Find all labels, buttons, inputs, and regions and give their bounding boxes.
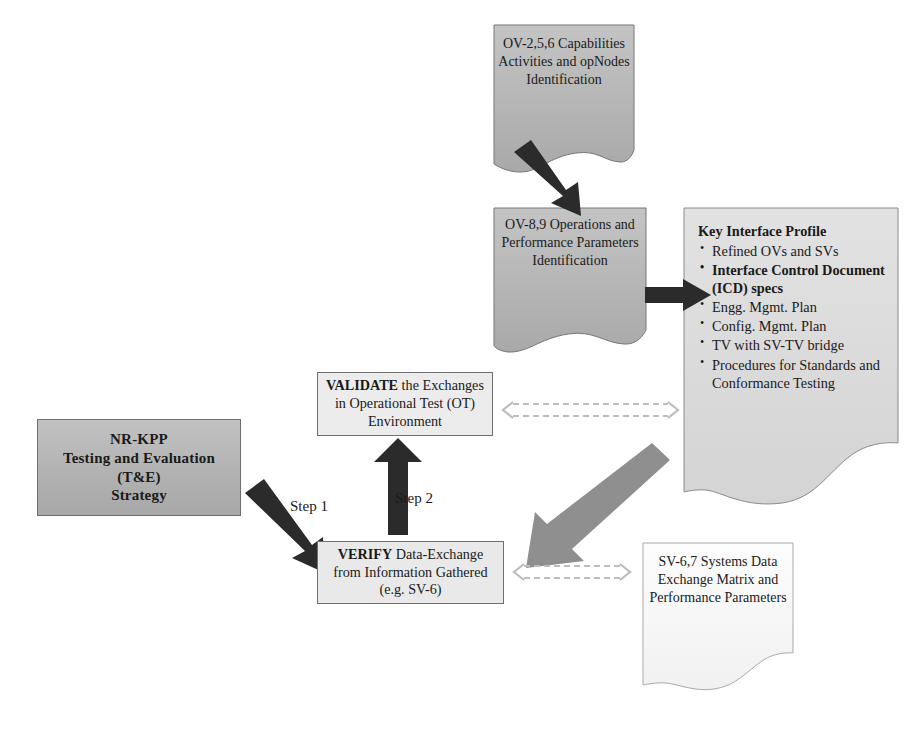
label-step-1: Step 1 (290, 498, 328, 515)
sv-67-line-4: Performance (649, 590, 721, 605)
kip-bullet: Config. Mgmt. Plan (712, 317, 890, 335)
dashed-arrow-validate-kip (513, 404, 668, 416)
node-nr-kpp[interactable]: NR-KPP Testing and Evaluation (T&E) Stra… (37, 419, 241, 516)
ov-256-title: OV-2,5,6 (503, 36, 555, 51)
node-ov-2-5-6[interactable]: OV-2,5,6 Capabilities Activities and opN… (494, 25, 634, 170)
verify-keyword: VERIFY (338, 546, 392, 562)
arrow-verify-to-validate (374, 438, 422, 535)
validate-line-1: VALIDATE the Exchanges (326, 377, 484, 395)
dashed-arrow-verify-sv67-heads (514, 564, 630, 580)
kip-bullet-list: Refined OVs and SVs Interface Control Do… (698, 242, 890, 392)
ov-256-line-1: Capabilities (558, 36, 625, 51)
kip-bullet: Interface Control Document (ICD) specs (712, 261, 890, 297)
verify-line-1-rest: Data-Exchange (392, 546, 483, 562)
ov-256-line-3: opNodes (580, 54, 630, 69)
sv-67-line-1: Systems Data (701, 554, 778, 569)
sv-67-text: SV-6,7 Systems Data Exchange Matrix and … (643, 553, 793, 608)
sv-67-title: SV-6,7 (659, 554, 698, 569)
nr-kpp-line-3: (T&E) (117, 468, 161, 487)
dashed-arrow-validate-kip-heads (503, 402, 678, 418)
dashed-arrow-verify-sv67 (524, 566, 620, 578)
kip-header: Key Interface Profile (698, 222, 890, 241)
ov-256-text: OV-2,5,6 Capabilities Activities and opN… (494, 35, 634, 90)
validate-keyword: VALIDATE (326, 377, 398, 393)
verify-line-3: (e.g. SV-6) (379, 581, 441, 599)
ov-89-line-4: Identification (532, 253, 607, 268)
ov-89-text: OV-8,9 Operations and Performance Parame… (494, 216, 646, 271)
node-validate[interactable]: VALIDATE the Exchanges in Operational Te… (317, 372, 493, 436)
ov-89-title: OV-8,9 (505, 217, 546, 232)
node-sv-6-7[interactable]: SV-6,7 Systems Data Exchange Matrix and … (643, 543, 793, 695)
ov-256-line-4: Identification (526, 72, 601, 87)
label-step-2: Step 2 (395, 490, 433, 507)
nr-kpp-line-2: Testing and Evaluation (63, 449, 215, 468)
node-ov-8-9[interactable]: OV-8,9 Operations and Performance Parame… (494, 208, 646, 352)
sv-67-line-3: and (758, 572, 778, 587)
sv-67-line-2: Exchange Matrix (658, 572, 755, 587)
diagram-canvas: OV-2,5,6 Capabilities Activities and opN… (0, 0, 923, 732)
arrow-nrkpp-to-verify (245, 479, 325, 573)
ov-89-line-2: Performance (501, 235, 573, 250)
node-verify[interactable]: VERIFY Data-Exchange from Information Ga… (317, 541, 504, 604)
kip-bullet: TV with SV-TV bridge (712, 336, 890, 354)
nr-kpp-line-1: NR-KPP (110, 430, 168, 449)
kip-bullet: Engg. Mgmt. Plan (712, 298, 890, 316)
ov-256-line-2: Activities and (498, 54, 576, 69)
node-key-interface-profile[interactable]: Key Interface Profile Refined OVs and SV… (684, 208, 898, 504)
verify-line-2: from Information Gathered (333, 564, 487, 582)
kip-text: Key Interface Profile Refined OVs and SV… (698, 222, 890, 393)
validate-line-1-rest: the Exchanges (398, 377, 484, 393)
ov-89-line-1: Operations and (550, 217, 635, 232)
validate-line-2: in Operational Test (OT) (335, 395, 475, 413)
kip-bullet: Refined OVs and SVs (712, 242, 890, 260)
ov-89-line-3: Parameters (576, 235, 638, 250)
sv-67-line-5: Parameters (724, 590, 786, 605)
kip-bullet: Procedures for Standards and Conformance… (712, 356, 890, 392)
validate-line-3: Environment (368, 413, 442, 431)
verify-line-1: VERIFY Data-Exchange (338, 546, 483, 564)
nr-kpp-line-4: Strategy (111, 486, 167, 505)
